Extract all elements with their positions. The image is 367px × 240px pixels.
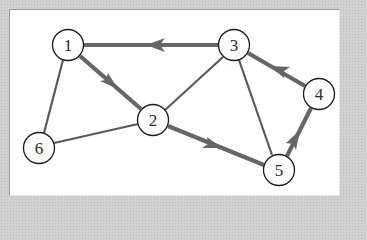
- node-1: 1: [53, 30, 84, 61]
- edge-3-5: [239, 60, 272, 155]
- edge-1-to-2: [80, 56, 141, 109]
- edge-2-3: [165, 57, 223, 110]
- edge-6-2: [54, 124, 138, 143]
- node-3: 3: [219, 30, 250, 61]
- graph-canvas: 1 2 3 4 5 6: [0, 0, 367, 206]
- node-label: 4: [315, 85, 324, 104]
- node-2: 2: [138, 105, 169, 136]
- node-label: 5: [275, 161, 284, 180]
- node-label: 3: [230, 36, 239, 55]
- edge-4-to-3: [248, 53, 305, 86]
- node-label: 2: [149, 111, 158, 130]
- node-label: 1: [64, 36, 73, 55]
- edge-3-to-1: [84, 38, 218, 52]
- edge-2-to-5: [168, 126, 264, 165]
- node-5: 5: [264, 155, 295, 186]
- edge-1-6: [44, 60, 63, 133]
- edge-5-to-4: [286, 108, 311, 156]
- node-label: 6: [35, 139, 44, 158]
- node-6: 6: [24, 133, 55, 164]
- node-4: 4: [304, 79, 335, 110]
